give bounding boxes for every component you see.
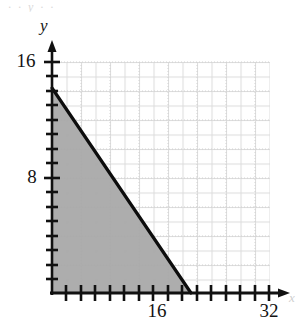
x-tick-label-32: 32: [249, 300, 289, 322]
x-axis-label: x: [289, 290, 295, 306]
y-tick-label-16: 16: [8, 50, 44, 72]
figure-root: · · y · ·: [0, 0, 299, 329]
y-axis-label: y: [40, 16, 48, 36]
y-tick-label-8: 8: [20, 166, 44, 188]
plot-canvas: [0, 0, 299, 329]
x-tick-label-16: 16: [137, 300, 177, 322]
